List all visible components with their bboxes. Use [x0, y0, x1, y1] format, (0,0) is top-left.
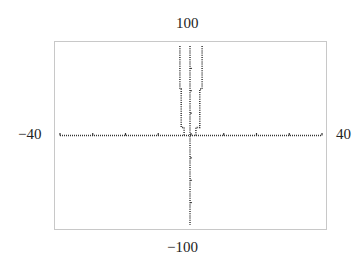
plot-area	[0, 0, 363, 263]
right-branch-curve	[196, 46, 202, 136]
left-branch-curve	[180, 46, 184, 136]
